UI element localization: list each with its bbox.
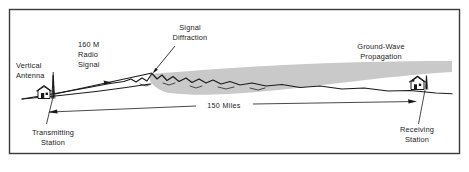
label-signal-diffraction-line2: Diffraction [173, 33, 208, 42]
label-radio-signal-line2: Radio [78, 50, 98, 59]
propagation-diagram-figure: Vertical Antenna 160 M Radio Signal Sign… [0, 0, 469, 172]
label-signal-diffraction-line1: Signal [179, 23, 201, 32]
label-transmitting-station-line2: Station [41, 138, 65, 147]
label-distance: 150 Miles [207, 101, 241, 110]
label-ground-wave-line1: Ground-Wave [357, 42, 404, 51]
label-vertical-antenna-line1: Vertical [16, 61, 42, 70]
label-vertical-antenna-line2: Antenna [16, 71, 45, 80]
label-radio-signal-line1: 160 M [78, 40, 99, 49]
label-receiving-station-line1: Receiving [400, 125, 434, 134]
label-radio-signal-line3: Signal [78, 60, 100, 69]
label-transmitting-station-line1: Transmitting [32, 128, 74, 137]
label-ground-wave-line2: Propagation [360, 52, 402, 61]
label-receiving-station-line2: Station [405, 135, 429, 144]
